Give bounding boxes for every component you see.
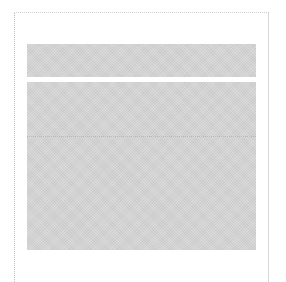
panel-header-text [170, 20, 260, 32]
skeleton-title-bar [27, 44, 256, 77]
skeleton-content-block [27, 82, 256, 250]
content-divider [27, 136, 256, 137]
